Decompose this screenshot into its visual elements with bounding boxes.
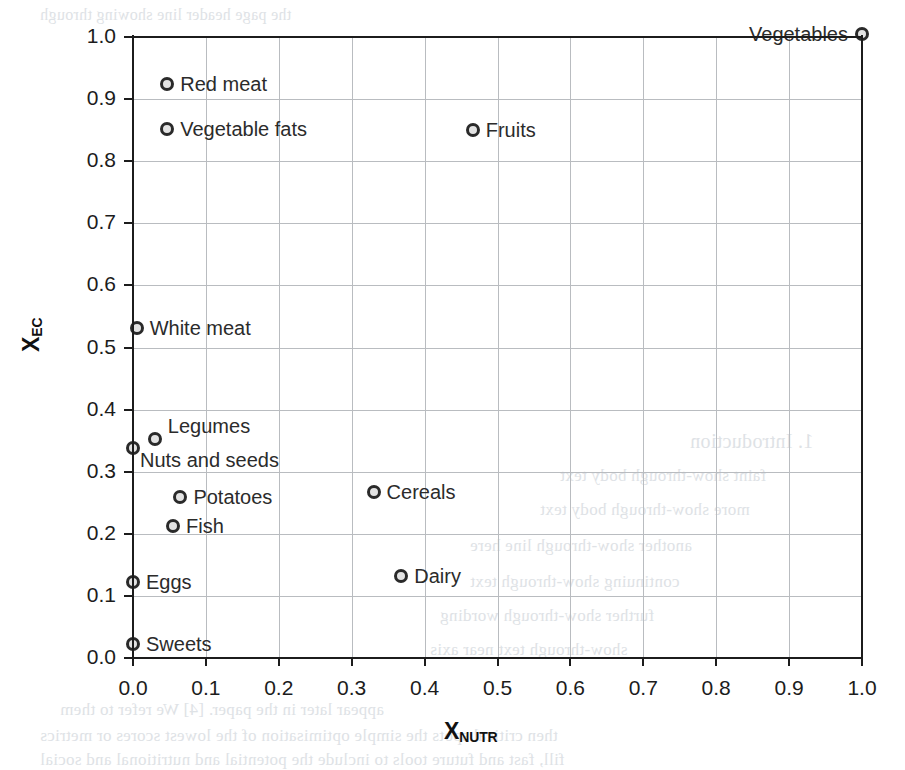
y-axis-title-subscript: EC (29, 318, 45, 337)
gridline-horizontal (133, 99, 862, 100)
x-axis-tick (715, 657, 717, 666)
x-axis-tick (788, 657, 790, 666)
gridline-horizontal (133, 223, 862, 224)
y-axis-tick-label: 0.3 (87, 459, 116, 483)
x-axis-tick (351, 657, 353, 666)
y-axis-tick-label: 1.0 (87, 24, 116, 48)
x-axis-tick (132, 657, 134, 666)
x-axis-tick-label: 0.2 (249, 676, 309, 700)
y-axis-tick (124, 36, 133, 38)
y-axis-tick (124, 222, 133, 224)
y-axis-tick-label: 0.9 (87, 86, 116, 110)
data-point-label: Legumes (168, 416, 250, 436)
x-axis-tick-label: 1.0 (832, 676, 892, 700)
gridline-horizontal (133, 161, 862, 162)
x-axis-tick (569, 657, 571, 666)
x-axis-tick (205, 657, 207, 666)
gridline-horizontal (133, 534, 862, 535)
y-axis-tick-label: 0.5 (87, 335, 116, 359)
y-axis-tick-label: 0.7 (87, 210, 116, 234)
x-axis-tick-label: 0.4 (395, 676, 455, 700)
x-axis-tick-label: 0.3 (322, 676, 382, 700)
y-axis-tick (124, 471, 133, 473)
data-point-label: Fruits (486, 120, 536, 140)
data-point-label: Red meat (180, 74, 267, 94)
gridline-horizontal (133, 410, 862, 411)
y-axis-tick (124, 98, 133, 100)
x-axis-tick (424, 657, 426, 666)
data-point-label: Eggs (146, 572, 192, 592)
data-point-label: Nuts and seeds (140, 450, 279, 470)
x-axis-title-subscript: NUTR (459, 729, 497, 745)
y-axis-tick-label: 0.4 (87, 397, 116, 421)
y-axis-tick-label: 0.1 (87, 583, 116, 607)
data-point-label: Dairy (414, 566, 461, 586)
data-point-marker (166, 519, 180, 533)
x-axis-title-main: X (444, 718, 459, 744)
y-axis-tick-label: 0.2 (87, 521, 116, 545)
data-point-marker (173, 490, 187, 504)
y-axis-tick-label: 0.0 (87, 645, 116, 669)
data-point-label: Potatoes (193, 487, 272, 507)
x-axis-title: XNUTR (444, 718, 497, 745)
y-axis-tick (124, 284, 133, 286)
data-point-marker (148, 432, 162, 446)
y-axis-title: XEC (18, 318, 45, 352)
y-axis-tick (124, 160, 133, 162)
x-axis-tick-label: 0.6 (540, 676, 600, 700)
gridline-horizontal (133, 285, 862, 286)
x-axis-tick (861, 657, 863, 666)
axis-line-right (861, 35, 863, 659)
x-axis-tick-label: 0.9 (759, 676, 819, 700)
data-point-label: Cereals (387, 482, 456, 502)
data-point-label: Vegetables (749, 24, 848, 44)
y-axis-tick (124, 595, 133, 597)
y-axis-title-main: X (18, 337, 44, 352)
y-axis-tick-label: 0.6 (87, 272, 116, 296)
x-axis-tick-label: 0.5 (468, 676, 528, 700)
data-point-marker (160, 122, 174, 136)
axis-line-top (132, 36, 863, 38)
data-point-marker (394, 569, 408, 583)
gridline-horizontal (133, 472, 862, 473)
x-axis-tick-label: 0.7 (613, 676, 673, 700)
data-point-label: Fish (186, 516, 224, 536)
y-axis-tick (124, 347, 133, 349)
x-axis-tick (497, 657, 499, 666)
data-point-label: White meat (150, 318, 251, 338)
data-point-label: Sweets (146, 634, 212, 654)
x-axis-tick (642, 657, 644, 666)
x-axis-tick-label: 0.1 (176, 676, 236, 700)
x-axis-tick (278, 657, 280, 666)
gridline-horizontal (133, 596, 862, 597)
x-axis-tick-label: 0.8 (686, 676, 746, 700)
y-axis-tick-label: 0.8 (87, 148, 116, 172)
y-axis-tick (124, 533, 133, 535)
data-point-marker (466, 123, 480, 137)
x-axis-tick-label: 0.0 (103, 676, 163, 700)
data-point-marker (160, 77, 174, 91)
plot-area: Red meatVegetable fatsFruitsVegetablesWh… (133, 37, 862, 658)
data-point-label: Vegetable fats (180, 119, 307, 139)
y-axis-tick (124, 409, 133, 411)
gridline-horizontal (133, 348, 862, 349)
data-point-marker (367, 485, 381, 499)
